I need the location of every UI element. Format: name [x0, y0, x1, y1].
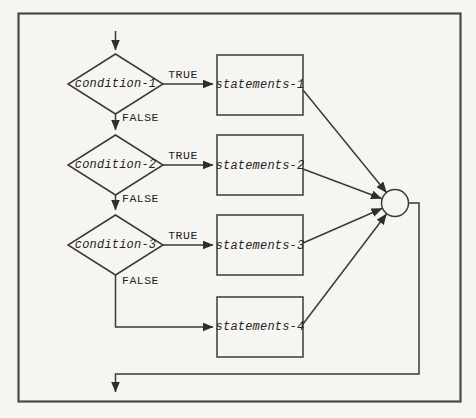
flowchart-figure: condition-1 condition-2 condition-3 stat… — [0, 0, 476, 418]
merge-arrow-statements-1 — [303, 90, 387, 193]
true-label-2: TRUE — [168, 149, 198, 162]
true-label-1: TRUE — [168, 68, 198, 81]
condition-3-label: condition-3 — [75, 238, 156, 252]
statements-2-label: statements-2 — [216, 159, 305, 173]
statements-3-label: statements-3 — [216, 239, 305, 253]
merge-arrow-statements-3 — [303, 209, 382, 244]
flowchart-canvas: condition-1 condition-2 condition-3 stat… — [0, 0, 476, 418]
merge-arrow-statements-4 — [303, 214, 387, 324]
merge-arrow-statements-2 — [303, 169, 382, 199]
false-label-3: FALSE — [122, 274, 159, 287]
condition-2-label: condition-2 — [75, 158, 156, 172]
statements-1-label: statements-1 — [216, 78, 305, 92]
false-label-1: FALSE — [122, 111, 159, 124]
false-label-2: FALSE — [122, 192, 159, 205]
true-label-3: TRUE — [168, 229, 198, 242]
condition-1-label: condition-1 — [75, 77, 156, 91]
statements-4-label: statements-4 — [216, 320, 305, 334]
join-connector-circle — [382, 190, 409, 217]
